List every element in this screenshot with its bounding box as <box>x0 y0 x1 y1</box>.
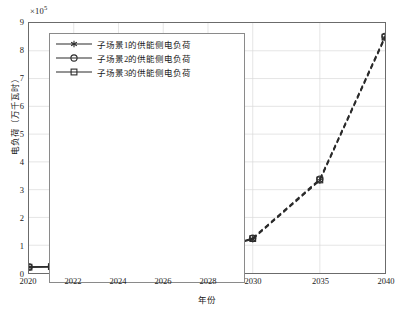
legend-sample-square-marker <box>54 66 94 78</box>
y-axis-title: 电负荷（万千瓦时） <box>8 54 20 174</box>
legend: 子场景1的供能侧电负荷子场景2的供能侧电负荷子场景3的供能侧电负荷 <box>49 33 245 283</box>
y-tick-label: 3 <box>6 185 24 195</box>
x-tick-label: 2020 <box>20 276 37 286</box>
x-axis-ticks: 20202022202420262028203020352040 <box>28 276 386 290</box>
exponent-base: ×10 <box>30 6 44 16</box>
legend-label: 子场景3的供能侧电负荷 <box>94 66 191 78</box>
legend-sample-circle-marker <box>54 52 94 64</box>
series-line-dashed <box>253 37 385 238</box>
x-tick-label: 2024 <box>110 276 127 286</box>
y-tick-label: 2 <box>6 213 24 223</box>
legend-item[interactable]: 子场景3的供能侧电负荷 <box>54 65 240 79</box>
x-axis-title: 年份 <box>28 293 386 305</box>
y-axis-exponent-label: ×105 <box>30 4 47 16</box>
chart-container: ×105 0123456789 电负荷（万千瓦时） 子场景1的供能侧电负荷子场景… <box>0 0 404 325</box>
x-tick-label: 2030 <box>245 276 262 286</box>
exponent-power: 5 <box>44 4 47 11</box>
plot-area: 子场景1的供能侧电负荷子场景2的供能侧电负荷子场景3的供能侧电负荷 <box>28 22 386 274</box>
legend-label: 子场景1的供能侧电负荷 <box>94 38 191 50</box>
x-tick-label: 2040 <box>378 276 395 286</box>
series-line-dashed <box>253 38 385 239</box>
y-tick-label: 1 <box>6 241 24 251</box>
x-tick-label: 2035 <box>312 276 329 286</box>
series-line-dashed <box>253 36 385 238</box>
x-tick-label: 2022 <box>65 276 82 286</box>
legend-label: 子场景2的供能侧电负荷 <box>94 52 191 64</box>
legend-sample-asterisk-marker <box>54 38 94 50</box>
x-tick-label: 2028 <box>200 276 217 286</box>
legend-item[interactable]: 子场景2的供能侧电负荷 <box>54 51 240 65</box>
x-tick-label: 2026 <box>155 276 172 286</box>
legend-item[interactable]: 子场景1的供能侧电负荷 <box>54 37 240 51</box>
y-tick-label: 9 <box>6 17 24 27</box>
